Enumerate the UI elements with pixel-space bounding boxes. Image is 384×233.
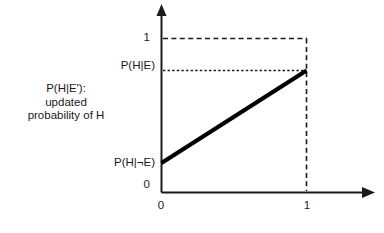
y-axis-tick-0: 0 <box>128 179 150 191</box>
y-axis-arrow-icon <box>157 4 167 16</box>
x-axis-tick-1: 1 <box>297 200 317 212</box>
data-line-updated-probability <box>162 71 307 164</box>
x-axis-arrow-icon <box>362 187 375 198</box>
label-p-h-given-e: P(H|E) <box>0 60 155 72</box>
label-p-h-given-not-e: P(H|¬E) <box>0 157 155 169</box>
x-axis-tick-0: 0 <box>151 200 171 212</box>
y-axis-tick-1: 1 <box>128 32 150 44</box>
figure-canvas: 1 0 0 1 P(H|E) P(H|¬E) P(H|E'): updated … <box>0 0 384 233</box>
y-axis-caption-line-3: probability of H <box>0 109 132 123</box>
y-axis-caption: P(H|E'): updated probability of H <box>0 82 132 123</box>
y-axis-caption-line-1: P(H|E'): <box>0 82 132 96</box>
y-axis-caption-line-2: updated <box>0 96 132 110</box>
